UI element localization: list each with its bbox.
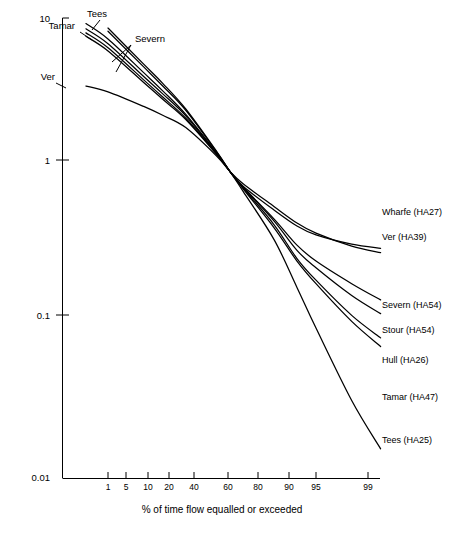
- label-stour-right: Stour (HA54): [382, 325, 435, 335]
- curve-tees: [108, 28, 381, 449]
- curve-stour: [86, 33, 381, 314]
- x-tick-label-5: 5: [124, 482, 129, 492]
- x-axis-tick-labels: 1 5 10 20 40 60 80 90 95 99: [106, 482, 373, 492]
- chart-svg: 10 1 0.1 0.01 1 5 10 20 40 60 80 90: [0, 0, 467, 536]
- curves-group: [86, 24, 381, 449]
- flow-duration-curve-chart: 10 1 0.1 0.01 1 5 10 20 40 60 80 90: [0, 0, 467, 536]
- y-tick-label-0-1: 0.1: [37, 310, 50, 321]
- label-ver-right: Ver (HA39): [382, 232, 427, 242]
- label-wharfe-right: Wharfe (HA27): [382, 207, 442, 217]
- curve-hull: [86, 36, 381, 338]
- leader-tees-left: [92, 20, 100, 30]
- label-ver-left: Ver: [41, 71, 55, 82]
- label-tees-right: Tees (HA25): [382, 435, 432, 445]
- x-axis-ticks: [108, 472, 368, 478]
- label-severn-right: Severn (HA54): [382, 300, 442, 310]
- curve-wharfe: [108, 31, 381, 248]
- x-tick-label-90: 90: [284, 482, 294, 492]
- x-tick-label-10: 10: [143, 482, 153, 492]
- y-axis-tick-labels: 10 1 0.1 0.01: [32, 13, 51, 483]
- label-hull-right: Hull (HA26): [382, 355, 429, 365]
- x-tick-label-60: 60: [223, 482, 233, 492]
- x-tick-label-40: 40: [189, 482, 199, 492]
- x-tick-label-20: 20: [164, 482, 174, 492]
- axes-group: [63, 18, 381, 479]
- x-tick-label-1: 1: [106, 482, 111, 492]
- curve-tamar: [86, 24, 381, 347]
- x-tick-label-80: 80: [253, 482, 263, 492]
- label-severn-left: Severn: [135, 33, 165, 44]
- curve-ver: [86, 86, 381, 253]
- x-axis-title: % of time flow equalled or exceeded: [142, 504, 303, 515]
- label-tamar-left: Tamar: [49, 20, 75, 31]
- label-tamar-right: Tamar (HA47): [382, 392, 438, 402]
- y-tick-label-1: 1: [45, 155, 50, 166]
- y-tick-label-0-01: 0.01: [32, 472, 51, 483]
- label-tees-left: Tees: [87, 8, 107, 19]
- x-tick-label-95: 95: [311, 482, 321, 492]
- leader-ver-left: [56, 83, 66, 88]
- right-annotations: Wharfe (HA27) Ver (HA39) Severn (HA54) S…: [382, 207, 442, 445]
- x-tick-label-99: 99: [363, 482, 373, 492]
